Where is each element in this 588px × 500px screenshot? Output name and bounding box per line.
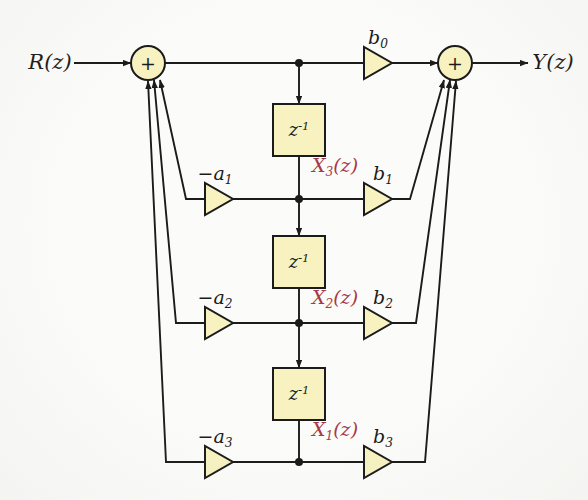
tap-node-x3 [295, 195, 303, 203]
diagram-canvas: R(z) Y(z) + + z-1 z-1 z-1 X3(z) X2(z) X1… [0, 0, 588, 500]
wire-feedback-a3 [148, 81, 205, 462]
input-adder-plus-sign: + [140, 54, 156, 73]
gain-label-b2: b2 [373, 288, 393, 310]
delay-3-label: z-1 [289, 385, 310, 403]
signal-flow-graph [0, 0, 588, 500]
input-signal-label: R(z) [28, 52, 71, 73]
state-label-x2: X2(z) [312, 288, 358, 310]
gain-triangle-a2 [205, 307, 233, 339]
output-signal-label: Y(z) [532, 52, 573, 73]
state-label-x3: X3(z) [312, 156, 358, 178]
gain-triangle-b2 [364, 307, 392, 339]
tap-node-x2 [295, 319, 303, 327]
gain-triangle-a1 [205, 183, 233, 215]
state-label-x1: X1(z) [312, 420, 358, 442]
delay-2-label: z-1 [289, 253, 310, 271]
gain-label-a1: −a1 [198, 164, 233, 186]
gain-triangle-b1 [364, 183, 392, 215]
gain-label-b0: b0 [368, 28, 388, 50]
wire-feedforward-b2 [392, 80, 450, 323]
gain-triangle-b3 [364, 446, 392, 478]
gain-label-a2: −a2 [198, 288, 233, 310]
tap-node-x1 [295, 458, 303, 466]
delay-1-label: z-1 [289, 121, 310, 139]
gain-label-b3: b3 [373, 427, 393, 449]
gain-triangle-a3 [205, 446, 233, 478]
tap-node-top [295, 59, 303, 67]
feedforward-gain-triangles [364, 47, 392, 478]
output-adder-plus-sign: + [447, 54, 463, 73]
gain-label-a3: −a3 [198, 427, 233, 449]
gain-label-b1: b1 [373, 164, 393, 186]
gain-triangle-b0 [364, 47, 392, 79]
